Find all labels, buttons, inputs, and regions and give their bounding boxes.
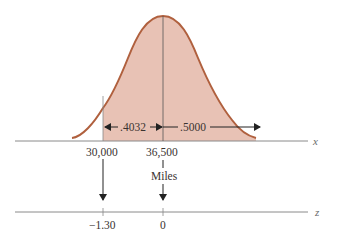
miles-label: Miles — [151, 170, 178, 182]
z-axis-label: z — [314, 206, 320, 218]
left-area-label: .4032 — [120, 121, 146, 133]
normal-curve-figure: x .4032 .5000 30,000 36,500 Miles z −1.3… — [0, 0, 338, 239]
x-axis-label: x — [312, 135, 318, 147]
x-tick-36500: 36,500 — [146, 146, 178, 159]
z-tick-0: 0 — [160, 219, 166, 231]
z-tick-neg130: −1.30 — [89, 219, 116, 231]
right-area-label: .5000 — [180, 121, 206, 133]
x-tick-30000: 30,000 — [86, 146, 118, 159]
